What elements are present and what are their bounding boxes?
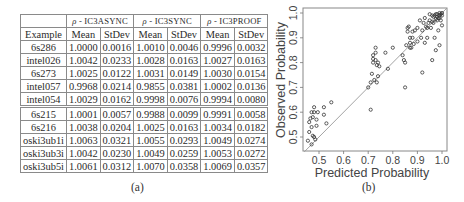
value-cell: 0.9968	[67, 80, 101, 93]
data-point	[391, 46, 394, 49]
value-cell: 0.0272	[234, 147, 268, 160]
x-axis-label: Predicted Probability	[315, 166, 430, 180]
value-cell: 0.0321	[100, 134, 134, 147]
value-cell: 0.0080	[234, 93, 268, 107]
data-point	[420, 36, 423, 39]
value-cell: 1.0049	[134, 147, 168, 160]
table-row: oski3ub3i1.00420.02301.00490.02591.00530…	[21, 147, 268, 160]
data-point	[406, 30, 409, 33]
value-cell: 1.0042	[67, 147, 101, 160]
example-name-cell: oski3ub3i	[21, 147, 67, 160]
data-point	[315, 124, 318, 127]
value-cell: 0.0099	[167, 107, 201, 121]
value-cell: 1.0010	[134, 41, 168, 54]
value-cell: 0.0149	[167, 67, 201, 80]
data-point	[374, 46, 377, 49]
data-point	[412, 42, 415, 45]
group-name: IC3ASYNC	[84, 16, 128, 26]
group-header-ic3async: ρ - IC3ASYNC	[67, 15, 134, 28]
value-cell: 1.0031	[134, 67, 168, 80]
group-dash: -	[147, 16, 155, 26]
value-cell: 0.0016	[100, 41, 134, 54]
data-point	[322, 106, 325, 109]
value-cell: 0.0274	[234, 134, 268, 147]
value-cell: 1.0029	[67, 93, 101, 107]
data-point	[316, 111, 319, 114]
data-point	[421, 71, 424, 74]
column-header: StDev	[167, 28, 201, 41]
y-tick-label: 0.7	[287, 80, 299, 95]
value-cell: 1.0000	[67, 41, 101, 54]
value-cell: 0.9998	[134, 93, 168, 107]
value-cell: 0.0046	[167, 41, 201, 54]
x-tick-label: 0.9	[410, 154, 425, 166]
y-tick-label: 1.0	[287, 6, 299, 21]
data-point	[370, 72, 373, 75]
value-cell: 1.0025	[134, 121, 168, 134]
data-point	[408, 41, 411, 44]
data-point	[315, 118, 318, 121]
example-name-cell: 6s286	[21, 41, 67, 54]
example-name-cell: intel057	[21, 80, 67, 93]
data-point	[306, 139, 309, 142]
example-name-cell: intel026	[21, 54, 67, 67]
value-cell: 1.0063	[67, 134, 101, 147]
value-cell: 0.0162	[100, 93, 134, 107]
value-cell: 1.0049	[201, 134, 235, 147]
value-cell: 0.9991	[201, 107, 235, 121]
caption-b: (b)	[362, 181, 375, 193]
data-point	[369, 81, 372, 84]
data-point	[429, 26, 432, 29]
value-cell: 1.0028	[134, 54, 168, 67]
value-cell: 0.0163	[167, 121, 201, 134]
x-axis-ticks: 0.50.60.70.80.91.0	[312, 151, 450, 166]
value-cell: 0.0214	[100, 80, 134, 93]
data-point	[384, 51, 387, 54]
data-point	[423, 16, 426, 19]
scatter-points	[306, 11, 443, 146]
value-cell: 1.0069	[201, 160, 235, 173]
y-tick-label: 0.5	[287, 130, 299, 145]
value-cell: 0.0122	[100, 67, 134, 80]
data-point	[325, 122, 328, 125]
value-cell: 0.0230	[100, 147, 134, 160]
example-name-cell: intel054	[21, 93, 67, 107]
value-cell: 0.0058	[234, 107, 268, 121]
example-name-cell: 6s273	[21, 67, 67, 80]
column-header: StDev	[234, 28, 268, 41]
value-cell: 0.0381	[167, 80, 201, 93]
data-point	[404, 86, 407, 89]
column-header: Example	[21, 28, 67, 41]
group-header-ic3proof: ρ - IC3PROOF	[201, 15, 268, 28]
value-cell: 0.9855	[134, 80, 168, 93]
example-name-cell: oski3ub5i	[21, 160, 67, 173]
value-cell: 0.9996	[201, 41, 235, 54]
data-point	[322, 113, 325, 116]
data-point	[422, 21, 425, 24]
table-row: 6s2861.00000.00161.00100.00460.99960.003…	[21, 41, 268, 54]
group-name: IC3PROOF	[219, 16, 261, 26]
caption-a: (a)	[131, 181, 144, 193]
value-cell: 1.0002	[201, 80, 235, 93]
x-tick-label: 1.0	[435, 154, 450, 166]
data-point	[418, 19, 421, 22]
value-cell: 1.0070	[134, 160, 168, 173]
table-row: intel0570.99680.02140.98550.03811.00020.…	[21, 80, 268, 93]
data-point	[310, 126, 313, 129]
data-point	[369, 108, 372, 111]
results-table-container: ρ - IC3ASYNC ρ - IC3SYNC ρ - IC3PROOF Ex…	[20, 14, 268, 173]
value-cell: 0.0057	[100, 107, 134, 121]
data-point	[313, 106, 316, 109]
data-point	[434, 49, 437, 52]
x-tick-label: 0.7	[361, 154, 376, 166]
results-table: ρ - IC3ASYNC ρ - IC3SYNC ρ - IC3PROOF Ex…	[20, 14, 268, 173]
table-row: oski3ub1i1.00630.03211.00550.02931.00490…	[21, 134, 268, 147]
table-row: oski3ub5i1.00610.03121.00700.03581.00690…	[21, 160, 268, 173]
value-cell: 0.0163	[234, 54, 268, 67]
data-point	[433, 36, 436, 39]
value-cell: 0.0357	[234, 160, 268, 173]
value-cell: 0.0312	[100, 160, 134, 173]
y-tick-label: 0.8	[287, 55, 299, 70]
value-cell: 0.0204	[100, 121, 134, 134]
column-header: StDev	[100, 28, 134, 41]
